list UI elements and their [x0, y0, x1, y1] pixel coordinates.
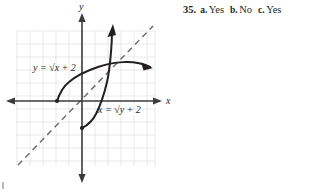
- coordinate-graph: y = √x + 2 x = √y + 2 x y: [0, 0, 180, 193]
- answer-part-b-value: No: [239, 4, 252, 15]
- y-axis-label: y: [78, 1, 84, 12]
- answer-part-c-letter: c.: [258, 5, 265, 15]
- curve2-endpoint-dot: [80, 126, 84, 130]
- figure-panel: y = √x + 2 x = √y + 2 x y: [0, 0, 180, 193]
- answer-number: 35.: [183, 4, 196, 15]
- answer-part-b-letter: b.: [230, 5, 238, 15]
- answer-part-c-value: Yes: [266, 4, 281, 15]
- curve2-label: x = √y + 2: [97, 104, 141, 115]
- x-axis-arrow-right: [153, 97, 162, 104]
- curve1-label: y = √x + 2: [32, 62, 76, 73]
- curve1-endpoint-dot: [55, 99, 59, 103]
- answer-part-a-value: Yes: [209, 4, 224, 15]
- y-axis-arrow-up: [78, 13, 85, 22]
- axes: [8, 16, 160, 180]
- identity-line-dashed: [18, 26, 153, 165]
- x-axis-arrow-left: [6, 97, 15, 104]
- x-axis-label: x: [165, 95, 171, 106]
- y-axis-arrow-down: [78, 174, 85, 183]
- answer-part-a-letter: a.: [200, 5, 207, 15]
- answer-key: 35.a.Yesb.Noc.Yes: [183, 3, 311, 17]
- curve2-arrowhead: [108, 24, 117, 37]
